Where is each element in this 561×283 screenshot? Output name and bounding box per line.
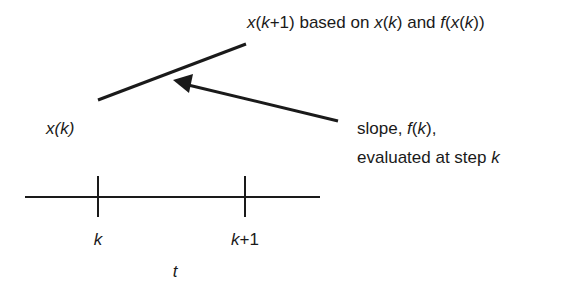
slope-annotation-line2: evaluated at step k	[357, 148, 501, 167]
tick-label-k: k	[94, 230, 104, 249]
slope-segment	[98, 44, 246, 100]
axis-label-t: t	[173, 262, 179, 281]
next-state-annotation: x(k+1) based on x(k) and f(x(k))	[246, 13, 485, 32]
slope-pointer-arrow	[184, 84, 338, 121]
tick-label-k-plus-1: k+1	[231, 230, 259, 249]
start-state-label: x(k)	[45, 119, 74, 138]
arrowhead-icon	[173, 74, 193, 93]
slope-annotation-line1: slope, f(k),	[357, 119, 436, 138]
euler-step-diagram: x(k+1) based on x(k) and f(x(k)) x(k) sl…	[0, 0, 561, 283]
